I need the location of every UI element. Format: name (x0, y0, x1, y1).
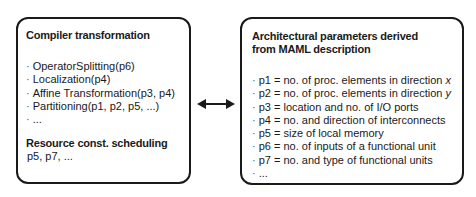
list-item: ·... (252, 167, 451, 180)
list-item: ·Localization(p4) (26, 73, 175, 86)
scheduling-title: Resource const. scheduling (26, 137, 168, 150)
bullet-icon: · (252, 167, 256, 179)
list-item: ·p3 = location and no. of I/O ports (252, 101, 451, 114)
list-item: ·p1 = no. of proc. elements in direction… (252, 74, 451, 87)
bullet-icon: · (252, 140, 256, 152)
list-item: ·p4 = no. and direction of interconnects (252, 114, 451, 127)
list-item: ·p6 = no. of inputs of a functional unit (252, 140, 451, 153)
bullet-icon: · (26, 113, 30, 125)
bullet-icon: · (26, 60, 30, 72)
bullet-icon: · (252, 127, 256, 139)
bullet-icon: · (26, 73, 30, 85)
list-item: ·Partitioning(p1, p2, p5, ...) (26, 100, 175, 113)
compiler-transformation-title: Compiler transformation (26, 29, 150, 42)
architectural-parameters-title: Architectural parameters derived from MA… (252, 30, 418, 56)
bullet-icon: · (252, 87, 256, 99)
architectural-parameters-box: Architectural parameters derived from MA… (240, 17, 464, 185)
bullet-icon: · (26, 100, 30, 112)
bullet-icon: · (252, 154, 256, 166)
bidirectional-arrow-icon (197, 98, 235, 110)
list-item: ·p7 = no. and type of functional units (252, 154, 451, 167)
scheduling-value: p5, p7, ... (27, 150, 73, 162)
bullet-icon: · (26, 87, 30, 99)
compiler-transformation-box: Compiler transformation ·OperatorSplitti… (16, 17, 191, 184)
bullet-icon: · (252, 101, 256, 113)
bullet-icon: · (252, 114, 256, 126)
compiler-transformation-list: ·OperatorSplitting(p6) ·Localization(p4)… (26, 60, 175, 126)
parameter-list: ·p1 = no. of proc. elements in direction… (252, 74, 451, 180)
bullet-icon: · (252, 74, 256, 86)
list-item: ·OperatorSplitting(p6) (26, 60, 175, 73)
list-item: ·p2 = no. of proc. elements in direction… (252, 87, 451, 100)
list-item: ·... (26, 113, 175, 126)
list-item: ·Affine Transformation(p3, p4) (26, 87, 175, 100)
list-item: ·p5 = size of local memory (252, 127, 451, 140)
